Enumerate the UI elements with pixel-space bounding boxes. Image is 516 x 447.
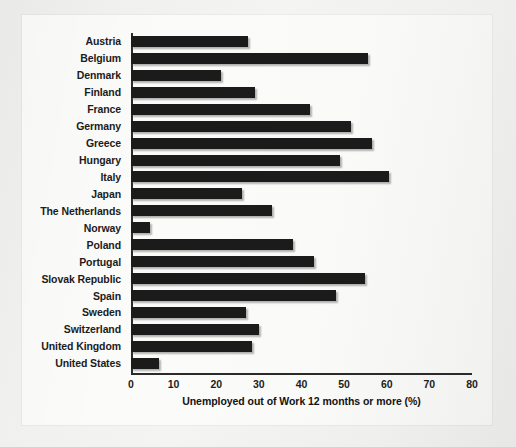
y-axis-label: United Kingdom bbox=[0, 338, 126, 355]
bar bbox=[131, 239, 293, 250]
y-axis-label: Finland bbox=[0, 84, 126, 101]
y-axis-label: Italy bbox=[0, 169, 126, 186]
y-axis-label: Slovak Republic bbox=[0, 270, 126, 287]
bar bbox=[131, 273, 365, 284]
y-axis-label: Switzerland bbox=[0, 321, 126, 338]
x-tick-label: 0 bbox=[128, 378, 134, 390]
bar-row bbox=[131, 287, 472, 304]
y-axis-label: Norway bbox=[0, 219, 126, 236]
bar bbox=[131, 53, 368, 64]
y-axis-label: Denmark bbox=[0, 67, 126, 84]
bar-series bbox=[131, 33, 472, 372]
bar-chart: AustriaBelgiumDenmarkFinlandFranceGerman… bbox=[0, 0, 516, 447]
x-tick-label: 70 bbox=[424, 378, 436, 390]
y-axis-label: Greece bbox=[0, 135, 126, 152]
bar-row bbox=[131, 33, 472, 50]
x-tick-label: 10 bbox=[168, 378, 180, 390]
bar-row bbox=[131, 304, 472, 321]
bar-row bbox=[131, 253, 472, 270]
y-axis-label: Hungary bbox=[0, 152, 126, 169]
x-tick-label: 40 bbox=[296, 378, 308, 390]
bar bbox=[131, 341, 252, 352]
y-axis-label: Portugal bbox=[0, 253, 126, 270]
x-tick-label: 60 bbox=[381, 378, 393, 390]
bar bbox=[131, 188, 242, 199]
y-axis-label: Poland bbox=[0, 236, 126, 253]
x-tick-label: 80 bbox=[466, 378, 478, 390]
y-axis-label: France bbox=[0, 101, 126, 118]
bar bbox=[131, 87, 255, 98]
bar bbox=[131, 70, 221, 81]
y-axis-label: Japan bbox=[0, 185, 126, 202]
bar bbox=[131, 222, 150, 233]
y-axis-label: Austria bbox=[0, 33, 126, 50]
bar-row bbox=[131, 169, 472, 186]
bar bbox=[131, 205, 272, 216]
bar bbox=[131, 358, 159, 369]
bar bbox=[131, 324, 259, 335]
bar bbox=[131, 290, 336, 301]
y-axis-label: Germany bbox=[0, 118, 126, 135]
bar-row bbox=[131, 50, 472, 67]
y-axis-label: The Netherlands bbox=[0, 202, 126, 219]
x-tick-label: 50 bbox=[338, 378, 350, 390]
figure-container: AustriaBelgiumDenmarkFinlandFranceGerman… bbox=[0, 0, 516, 447]
bar-row bbox=[131, 84, 472, 101]
bar-row bbox=[131, 236, 472, 253]
bar bbox=[131, 256, 314, 267]
bar-row bbox=[131, 270, 472, 287]
bar-row bbox=[131, 321, 472, 338]
bar bbox=[131, 104, 310, 115]
bar bbox=[131, 171, 389, 182]
bar bbox=[131, 121, 351, 132]
bar-row bbox=[131, 67, 472, 84]
bar-row bbox=[131, 338, 472, 355]
bar-row bbox=[131, 355, 472, 372]
y-axis-label: Sweden bbox=[0, 304, 126, 321]
x-axis-title: Unemployed out of Work 12 months or more… bbox=[131, 395, 472, 407]
bar-row bbox=[131, 185, 472, 202]
bar bbox=[131, 36, 248, 47]
bar-row bbox=[131, 118, 472, 135]
x-axis-line bbox=[131, 373, 472, 375]
bar-row bbox=[131, 135, 472, 152]
y-axis-label: Belgium bbox=[0, 50, 126, 67]
y-axis-category-labels: AustriaBelgiumDenmarkFinlandFranceGerman… bbox=[0, 33, 126, 372]
x-axis-tick-labels: 01020304050607080 bbox=[131, 378, 472, 394]
bar-row bbox=[131, 101, 472, 118]
x-tick-label: 20 bbox=[210, 378, 222, 390]
y-axis-label: United States bbox=[0, 355, 126, 372]
bar-row bbox=[131, 219, 472, 236]
bar-row bbox=[131, 152, 472, 169]
bar bbox=[131, 307, 246, 318]
bar bbox=[131, 155, 340, 166]
bar-row bbox=[131, 202, 472, 219]
x-tick-label: 30 bbox=[253, 378, 265, 390]
bar bbox=[131, 138, 372, 149]
y-axis-label: Spain bbox=[0, 287, 126, 304]
